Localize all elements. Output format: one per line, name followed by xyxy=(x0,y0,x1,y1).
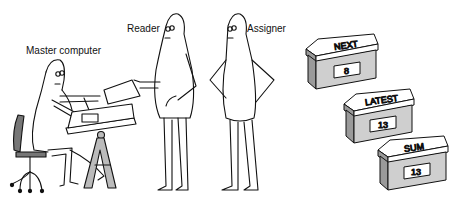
assigner-figure xyxy=(210,14,274,190)
reader-label: Reader xyxy=(127,23,160,34)
master-computer-label: Master computer xyxy=(26,45,101,56)
assigner-label: Assigner xyxy=(247,23,286,34)
box-sum-value: 13 xyxy=(411,167,421,177)
box-sum: SUM 13 xyxy=(378,136,448,190)
box-next: NEXT 8 xyxy=(306,34,378,89)
drawing-table xyxy=(66,104,136,188)
box-latest: LATEST 13 xyxy=(344,89,414,143)
illustration: NEXT 8 LATEST 13 SUM 13 xyxy=(0,0,459,201)
box-latest-value: 13 xyxy=(378,120,388,130)
reader-figure xyxy=(134,14,196,190)
paper xyxy=(104,80,140,104)
box-next-value: 8 xyxy=(344,66,349,76)
